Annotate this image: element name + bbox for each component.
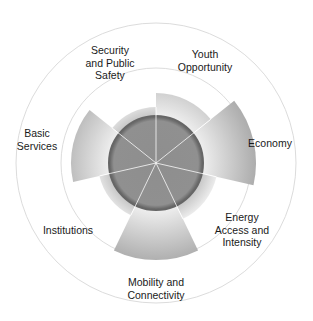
label-line: Security (85, 44, 134, 57)
label-line: Services (17, 139, 57, 152)
category-label-youth-opportunity: YouthOpportunity (178, 48, 232, 73)
label-line: Institutions (43, 224, 93, 237)
label-line: Basic (17, 127, 57, 140)
label-line: Safety (85, 69, 134, 82)
category-label-basic-services: BasicServices (17, 127, 57, 152)
category-label-institutions: Institutions (43, 224, 93, 237)
label-line: Access and (215, 224, 269, 237)
label-line: Energy (215, 211, 269, 224)
label-line: Intensity (215, 236, 269, 249)
label-line: Connectivity (127, 288, 184, 301)
category-label-mobility-and-connectivity: Mobility andConnectivity (127, 276, 184, 301)
label-line: Economy (248, 137, 292, 150)
label-line: Opportunity (178, 60, 232, 73)
label-line: and Public (85, 57, 134, 70)
label-line: Youth (178, 48, 232, 61)
category-label-security-and-public-safety: Securityand PublicSafety (85, 44, 134, 82)
category-label-economy: Economy (248, 137, 292, 150)
label-line: Mobility and (127, 276, 184, 289)
polar-bar-chart (0, 0, 313, 321)
category-label-energy-access-and-intensity: EnergyAccess andIntensity (215, 211, 269, 249)
